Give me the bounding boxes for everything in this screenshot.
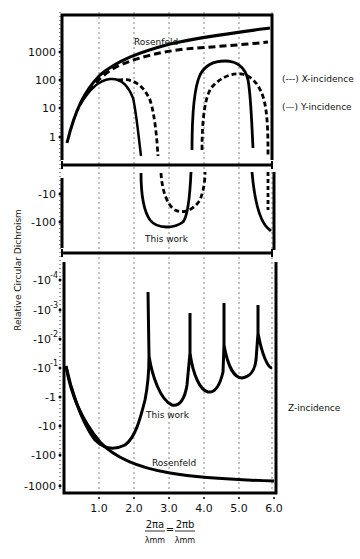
svg-text:-10: -10	[33, 333, 51, 346]
svg-text:-1000: -1000	[24, 480, 56, 493]
svg-text:-100: -100	[31, 216, 56, 229]
legend: (---) X-incidence (—) Y-incidence Z-inci…	[282, 74, 354, 413]
annotation-rosenfeld-bottom: Rosenfeld	[152, 458, 196, 468]
svg-text:-10: -10	[33, 274, 51, 287]
svg-text:10: 10	[42, 102, 56, 115]
legend-x-incidence: (---) X-incidence	[282, 74, 354, 84]
svg-text:4.0: 4.0	[195, 502, 213, 515]
annotation-rosenfeld-top: Rosenfeld	[134, 37, 178, 47]
top-panel-curves	[67, 28, 270, 156]
svg-text:1.0: 1.0	[90, 502, 108, 515]
middle-panel-curves	[141, 172, 271, 231]
x-tick-marks	[98, 497, 275, 499]
legend-z-incidence: Z-incidence	[288, 403, 341, 413]
legend-y-incidence: (—) Y-incidence	[282, 102, 352, 112]
svg-text:-10: -10	[33, 362, 51, 375]
cd-chart: 1000 100 10 1 -10 -100 -10 -4 -10 -3 -10…	[0, 0, 360, 559]
y-axis-label: Relative Circular Dichroism	[13, 209, 23, 331]
svg-text:λmm: λmm	[175, 536, 196, 545]
svg-text:3.0: 3.0	[160, 502, 178, 515]
svg-text:-1: -1	[50, 359, 58, 368]
svg-text:6.0: 6.0	[265, 502, 283, 515]
svg-text:2πb: 2πb	[176, 519, 195, 530]
annotation-this-work-mid: This work	[144, 234, 189, 244]
svg-text:-1: -1	[45, 391, 56, 404]
bottom-panel-curves	[66, 292, 274, 481]
svg-text:-2: -2	[50, 330, 58, 339]
svg-text:2πa: 2πa	[146, 519, 165, 530]
annotation-this-work-bottom: This work	[145, 410, 190, 420]
svg-text:-10: -10	[38, 188, 56, 201]
x-tick-labels: 1.0 2.0 3.0 4.0 5.0 6.0	[90, 502, 283, 515]
svg-text:-10: -10	[38, 420, 56, 433]
svg-text:1000: 1000	[28, 46, 56, 59]
svg-text:5.0: 5.0	[230, 502, 248, 515]
svg-text:λmm: λmm	[145, 536, 166, 545]
svg-text:1: 1	[49, 131, 56, 144]
svg-text:100: 100	[35, 74, 56, 87]
svg-text:-10: -10	[33, 304, 51, 317]
svg-text:-100: -100	[31, 449, 56, 462]
x-axis-label: 2πa λmm = 2πb λmm	[145, 519, 196, 545]
y-tick-labels: 1000 100 10 1 -10 -100 -10 -4 -10 -3 -10…	[24, 46, 58, 493]
svg-text:-4: -4	[50, 271, 58, 280]
svg-text:-3: -3	[50, 301, 58, 310]
svg-text:=: =	[166, 524, 174, 535]
svg-text:2.0: 2.0	[125, 502, 143, 515]
